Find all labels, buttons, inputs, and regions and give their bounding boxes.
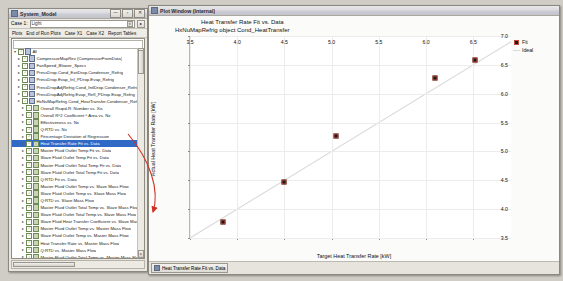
tree-collapse-icon[interactable]: ▸ — [17, 64, 21, 68]
minimize-button[interactable]: — — [110, 9, 121, 18]
tree-item[interactable]: ▸✓Slave Fluid Outlet Total Temp vs. Slav… — [12, 211, 138, 218]
tree-item-checkbox[interactable]: ✓ — [26, 105, 32, 111]
tree-collapse-icon[interactable]: ▸ — [21, 142, 25, 146]
plot-window-titlebar[interactable]: Plot Window (Internal) — [149, 6, 559, 16]
tree-item[interactable]: ▸✓Overall Rsqrd-R: Number vs. Xis — [12, 105, 138, 112]
tree-item[interactable]: ▸✓PressDrop.Cond_ExitDrop.Condenser_Refr… — [12, 69, 138, 76]
tree-item-checkbox[interactable]: ✓ — [22, 77, 28, 83]
tree-collapse-icon[interactable]: ▸ — [21, 227, 25, 231]
tree-list[interactable]: ▾✓All▸✓CompressorMapRev (CompressorFromD… — [12, 48, 138, 258]
tree-collapse-icon[interactable]: ▸ — [21, 241, 25, 245]
tree-item[interactable]: ▸✓Heat Transfer Rate vs. Master Mass Flo… — [12, 240, 138, 247]
plot-taskbar[interactable]: Heat Transfer Rate Fit vs. Data — [149, 261, 559, 274]
tree-item[interactable]: ▾✓All — [12, 48, 138, 55]
tree-item-checkbox[interactable]: ✓ — [26, 141, 32, 147]
tree-item[interactable]: ▸✓Slave Fluid Heat Transfer Coefficient … — [12, 218, 138, 225]
tree-collapse-icon[interactable]: ▸ — [21, 156, 25, 160]
tree-item-checkbox[interactable]: ✓ — [22, 56, 28, 62]
tree-item[interactable]: ▸✓PressDrop.Evap_Inl_PDrop.Evap_Refrig — [12, 76, 138, 83]
tree-item[interactable]: ▸✓Q:RTD vs. Master Mass Flow — [12, 247, 138, 254]
menu-item-plots[interactable]: Plots — [12, 31, 22, 36]
tree-collapse-icon[interactable]: ▸ — [21, 113, 25, 117]
menu-item-report-tables[interactable]: Report Tables — [108, 31, 136, 36]
tree-item[interactable]: ▸✓Q:RTD Fit vs. Data — [12, 176, 138, 183]
tree-collapse-icon[interactable]: ▸ — [21, 255, 25, 258]
tree-item-checkbox[interactable]: ✓ — [26, 254, 32, 258]
tree-item-checkbox[interactable]: ✓ — [26, 176, 32, 182]
tree-expand-icon[interactable]: ▾ — [13, 50, 17, 54]
tree-item[interactable]: ▸✓PressDropAdjRefrig.Cond_IntlDrop.Conde… — [12, 83, 138, 90]
tree-item-checkbox[interactable]: ✓ — [26, 247, 32, 253]
tree-collapse-icon[interactable]: ▸ — [17, 92, 21, 96]
tree-collapse-icon[interactable]: ▸ — [21, 248, 25, 252]
system-model-menubar[interactable]: Plots End of Run Plots Case X1 Case X2 R… — [9, 29, 147, 38]
tree-item[interactable]: ▸✓Master Fluid Outlet Temp vs. Master Ma… — [12, 225, 138, 232]
tree-item[interactable]: ▸✓Master Fluid Outlet Temp vs. Slave Mas… — [12, 183, 138, 190]
tree-item-checkbox[interactable]: ✓ — [26, 240, 32, 246]
tree-item[interactable]: ▸✓Q:RTD vs. Nx — [12, 126, 138, 133]
tree-item-checkbox[interactable]: ✓ — [26, 119, 32, 125]
tree-collapse-icon[interactable]: ▸ — [17, 71, 21, 75]
tree-collapse-icon[interactable]: ▸ — [21, 135, 25, 139]
tree-collapse-icon[interactable]: ▸ — [21, 199, 25, 203]
tree-item-checkbox[interactable]: ✓ — [26, 226, 32, 232]
tree-item[interactable]: ▸✓FanSpeed_Blower_Specs — [12, 62, 138, 69]
tree-item[interactable]: ▸✓Slave Fluid Outlet Temp Fit vs. Data — [12, 154, 138, 161]
tree-item[interactable]: ▸✓Master Fluid Outlet Total Temp Fit vs.… — [12, 162, 138, 169]
taskbar-item-heat-transfer-plot[interactable]: Heat Transfer Rate Fit vs. Data — [151, 263, 228, 273]
tree-item[interactable]: ▸✓Heat Transfer Rate Fit vs. Data — [12, 140, 138, 147]
tree-collapse-icon[interactable]: ▸ — [21, 106, 25, 110]
tree-item[interactable]: ▸✓Master Fluid Outlet Total Temp vs. Mas… — [12, 254, 138, 258]
chevron-down-icon[interactable]: ▾ — [127, 21, 133, 27]
menu-item-case-x1[interactable]: Case X1 — [65, 31, 83, 36]
tree-item[interactable]: ▸✓HxNuMapRefrig.Cond_HeatTransfer.Conden… — [12, 98, 138, 105]
tree-item-checkbox[interactable]: ✓ — [26, 112, 32, 118]
tree-item-checkbox[interactable]: ✓ — [26, 127, 32, 133]
menu-item-case-x2[interactable]: Case X2 — [86, 31, 104, 36]
tree-item-checkbox[interactable]: ✓ — [26, 205, 32, 211]
window-buttons[interactable]: — ▫ ✕ — [110, 9, 145, 18]
tree-item-checkbox[interactable]: ✓ — [26, 198, 32, 204]
hscroll-thumb[interactable] — [13, 262, 75, 267]
tree-collapse-icon[interactable]: ▸ — [21, 128, 25, 132]
tree-item-checkbox[interactable]: ✓ — [26, 233, 32, 239]
tree-collapse-icon[interactable]: ▸ — [17, 99, 21, 103]
tree-collapse-icon[interactable]: ▸ — [21, 170, 25, 174]
run-button[interactable]: ▸ — [137, 20, 145, 28]
tree-item[interactable]: ▸✓Master Fluid Outlet Temp Fit vs. Data — [12, 147, 138, 154]
tree-item[interactable]: ▸✓Master Fluid Outlet Total Temp vs. Sla… — [12, 204, 138, 211]
tree-collapse-icon[interactable]: ▸ — [21, 220, 25, 224]
tree-item[interactable]: ▸✓Q:RTD vs. Slave Mass Flow — [12, 197, 138, 204]
tree-item-checkbox[interactable]: ✓ — [26, 162, 32, 168]
tree-vertical-scrollbar[interactable]: ▴ ▾ — [137, 48, 144, 258]
tree-collapse-icon[interactable]: ▸ — [17, 78, 21, 82]
maximize-button[interactable]: ▫ — [122, 9, 133, 18]
tree-item-checkbox[interactable]: ✓ — [26, 134, 32, 140]
tree-item[interactable]: ▸✓Slave Fluid Outlet Total Temp Fit vs. … — [12, 169, 138, 176]
system-model-titlebar[interactable]: System_Model — ▫ ✕ — [9, 9, 147, 19]
case-dropdown[interactable]: Light ▾ — [30, 20, 135, 28]
tree-collapse-icon[interactable]: ▸ — [21, 206, 25, 210]
tree-item-checkbox[interactable]: ✓ — [22, 70, 28, 76]
tree-item-checkbox[interactable]: ✓ — [22, 63, 28, 69]
tree-item-checkbox[interactable]: ✓ — [26, 169, 32, 175]
tree-item-checkbox[interactable]: ✓ — [26, 183, 32, 189]
tree-collapse-icon[interactable]: ▸ — [21, 234, 25, 238]
menu-item-end-of-run-plots[interactable]: End of Run Plots — [26, 31, 60, 36]
tree-item-checkbox[interactable]: ✓ — [22, 98, 28, 104]
tree-item-checkbox[interactable]: ✓ — [26, 190, 32, 196]
plot-window[interactable]: Plot Window (Internal) Heat Transfer Rat… — [148, 5, 560, 275]
tree-item-checkbox[interactable]: ✓ — [18, 49, 24, 55]
tree-item-checkbox[interactable]: ✓ — [26, 155, 32, 161]
case-toolbar[interactable]: Case 1: Light ▾ ▸ — [9, 19, 147, 29]
system-model-window[interactable]: System_Model — ▫ ✕ Case 1: Light ▾ ▸ Plo… — [8, 8, 148, 272]
tree-collapse-icon[interactable]: ▸ — [21, 177, 25, 181]
tree-item-checkbox[interactable]: ✓ — [26, 219, 32, 225]
plot-tree-panel[interactable]: ▾✓All▸✓CompressorMapRev (CompressorFromD… — [11, 38, 145, 259]
tree-item-checkbox[interactable]: ✓ — [26, 212, 32, 218]
tree-item[interactable]: ▸✓Slave Fluid Outlet Temp vs. Master Mas… — [12, 232, 138, 239]
tree-item-checkbox[interactable]: ✓ — [22, 91, 28, 97]
tree-item-checkbox[interactable]: ✓ — [26, 148, 32, 154]
tree-horizontal-scrollbar[interactable] — [11, 260, 145, 269]
tree-item[interactable]: ▸✓Slave Fluid Outlet Temp vs. Slave Mass… — [12, 190, 138, 197]
